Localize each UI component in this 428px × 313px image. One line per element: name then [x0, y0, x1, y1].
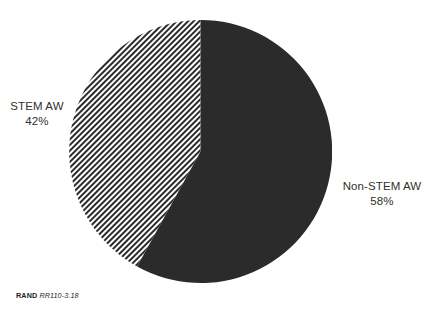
pie-label-non-stem-aw-value: 58% [334, 194, 428, 209]
pie-label-stem-aw-name: STEM AW [4, 99, 70, 114]
pie-label-non-stem-aw-name: Non-STEM AW [334, 179, 428, 194]
pie-label-stem-aw: STEM AW 42% [4, 99, 70, 129]
pie-chart-canvas [69, 20, 332, 283]
source-identifier: RR110-3.18 [39, 291, 78, 300]
pie-label-stem-aw-value: 42% [4, 114, 70, 129]
source-brand: RAND [16, 291, 37, 300]
pie-chart-svg [69, 20, 332, 283]
source-caption: RAND RR110-3.18 [16, 291, 79, 301]
pie-chart-figure: STEM AW 42% Non-STEM AW 58% RAND RR110-3… [0, 0, 428, 313]
pie-label-non-stem-aw: Non-STEM AW 58% [334, 179, 428, 209]
